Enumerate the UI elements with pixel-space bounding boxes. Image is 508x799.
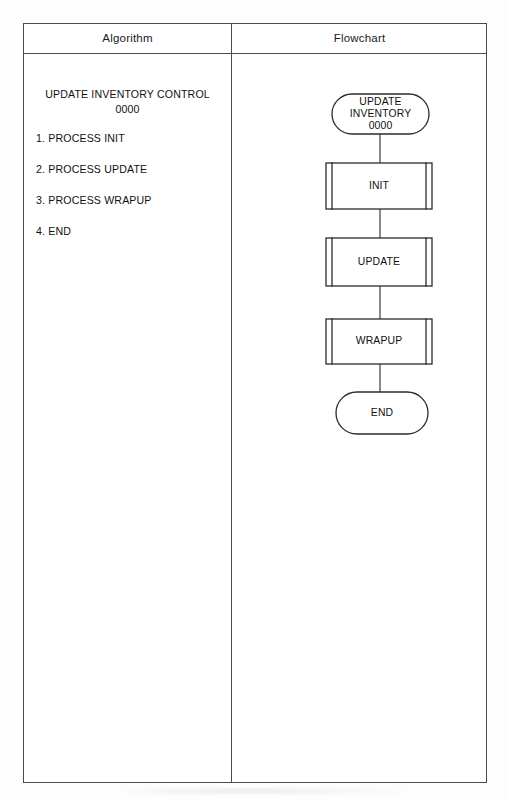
algorithm-flowchart-table: Algorithm Flowchart UPDATE INVENTORY CON… bbox=[23, 23, 487, 783]
algorithm-step-list: 1. PROCESS INIT 2. PROCESS UPDATE 3. PRO… bbox=[36, 132, 226, 256]
scanned-page: Algorithm Flowchart UPDATE INVENTORY CON… bbox=[0, 0, 508, 799]
list-item: 1. PROCESS INIT bbox=[36, 132, 226, 163]
flowchart-diagram bbox=[233, 54, 487, 454]
flow-node-update-shape bbox=[326, 238, 432, 286]
scan-artifact bbox=[120, 788, 410, 794]
column-header-flowchart: Flowchart bbox=[232, 24, 487, 53]
algorithm-cell: UPDATE INVENTORY CONTROL 0000 1. PROCESS… bbox=[24, 54, 231, 783]
flow-node-wrapup-shape bbox=[326, 319, 432, 364]
list-item: 4. END bbox=[36, 225, 226, 256]
list-item: 2. PROCESS UPDATE bbox=[36, 163, 226, 194]
list-item: 3. PROCESS WRAPUP bbox=[36, 194, 226, 225]
column-header-algorithm: Algorithm bbox=[24, 24, 231, 53]
flow-node-end-shape bbox=[336, 392, 428, 434]
algorithm-title: UPDATE INVENTORY CONTROL 0000 bbox=[24, 87, 231, 117]
flowchart-cell: UPDATE INVENTORY 0000 INIT UPDATE WRAPUP… bbox=[233, 54, 487, 783]
flow-node-init-shape bbox=[326, 163, 432, 209]
flow-node-start-shape bbox=[332, 94, 429, 134]
